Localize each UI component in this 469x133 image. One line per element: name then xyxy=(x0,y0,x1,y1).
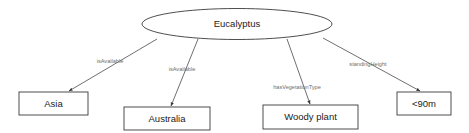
root-node-eucalyptus[interactable]: Eucalyptus xyxy=(142,9,332,40)
edge-labels-layer: isAvailable isAvailable hasVegetationTyp… xyxy=(97,58,387,90)
graph-canvas: isAvailable isAvailable hasVegetationTyp… xyxy=(0,0,469,133)
node-under-90m-label: <90m xyxy=(412,98,436,109)
edge-australia-line xyxy=(171,39,198,106)
node-asia[interactable]: Asia xyxy=(19,92,88,115)
node-australia[interactable]: Australia xyxy=(124,107,210,130)
edge-asia-line xyxy=(69,39,157,91)
edge-woody-plant-line xyxy=(287,39,310,104)
edges-layer xyxy=(69,38,420,106)
edge-label-standing-height: standingHeight xyxy=(349,61,387,67)
edge-label-has-vegetation-type: hasVegetationType xyxy=(273,84,321,90)
node-woody-plant[interactable]: Woody plant xyxy=(263,105,358,129)
root-node-label: Eucalyptus xyxy=(214,18,261,29)
node-asia-label: Asia xyxy=(44,98,63,109)
edge-label-is-available-australia: isAvailable xyxy=(169,66,196,72)
edge-label-is-available-asia: isAvailable xyxy=(97,58,124,64)
ontology-diagram: isAvailable isAvailable hasVegetationTyp… xyxy=(0,0,469,133)
node-under-90m[interactable]: <90m xyxy=(397,92,451,115)
node-woody-plant-label: Woody plant xyxy=(284,111,337,122)
node-australia-label: Australia xyxy=(149,113,187,124)
